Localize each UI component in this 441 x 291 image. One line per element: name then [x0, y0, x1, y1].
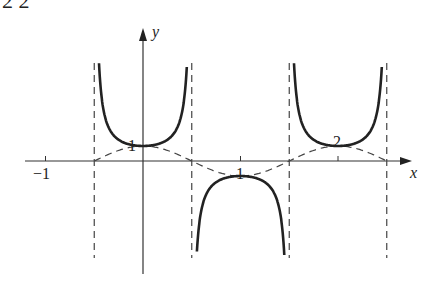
secant-branch	[197, 176, 284, 255]
x-axis-label: x	[410, 165, 417, 181]
tick-label-x-neg1: −1	[33, 166, 50, 182]
tick-label-y-1: 1	[128, 138, 136, 154]
graph-canvas	[0, 0, 441, 291]
tick-label-x-2: 2	[333, 134, 341, 150]
top-fragment-text: 2 2	[2, 0, 30, 12]
y-axis-arrow-icon	[139, 28, 147, 41]
y-axis-label: y	[152, 24, 159, 40]
tick-label-x-1: 1	[236, 166, 244, 182]
